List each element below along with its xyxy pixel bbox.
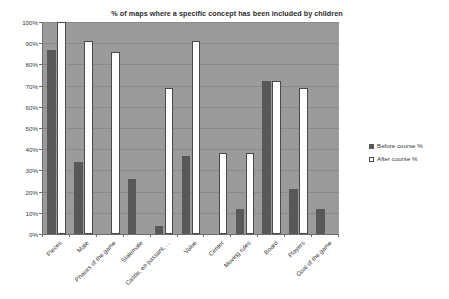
bar-after-course: [272, 81, 281, 234]
bar-before-course: [47, 50, 56, 234]
bar-group: [231, 22, 258, 234]
bar-group: [97, 22, 124, 234]
x-axis-label: Board: [262, 239, 279, 256]
x-axis-tick-mark: [150, 234, 151, 237]
y-axis-tick-label: 90%: [26, 40, 38, 47]
x-axis-tick-mark: [311, 234, 312, 237]
x-axis-tick-mark: [257, 234, 258, 237]
bar-before-course: [74, 162, 83, 234]
bar-after-course: [111, 52, 120, 234]
legend-item-label: Before course %: [377, 143, 423, 149]
bars-layer: [43, 22, 339, 234]
legend-item[interactable]: After course %: [369, 156, 423, 162]
outlined-square-icon: [369, 157, 374, 162]
x-axis-tick-mark: [203, 234, 204, 237]
bar-chart: % of maps where a specific concept has b…: [0, 0, 449, 299]
y-axis-tick-label: 40%: [26, 146, 38, 153]
bar-group: [70, 22, 97, 234]
bar-group: [151, 22, 178, 234]
bar-after-course: [57, 22, 66, 234]
bar-before-course: [289, 189, 298, 234]
bar-group: [258, 22, 285, 234]
legend-item-label: After course %: [377, 156, 418, 162]
x-axis-tick-mark: [123, 234, 124, 237]
bar-before-course: [155, 226, 164, 234]
chart-legend: Before course %After course %: [369, 143, 423, 169]
bar-before-course: [128, 179, 137, 234]
bar-before-course: [262, 81, 271, 234]
y-axis: 100%90%80%70%60%50%40%30%20%10%0%: [0, 0, 42, 236]
x-axis-tick-mark: [338, 234, 339, 237]
bar-before-course: [236, 209, 245, 234]
bar-group: [312, 22, 339, 234]
bar-after-course: [299, 88, 308, 234]
bar-group: [43, 22, 70, 234]
x-axis-label: Mate: [76, 239, 91, 254]
x-axis-label: Moving rules: [222, 239, 252, 269]
x-axis-label: Players: [286, 239, 306, 259]
x-axis-tick-mark: [284, 234, 285, 237]
y-axis-tick-label: 80%: [26, 61, 38, 68]
bar-after-course: [219, 153, 228, 234]
y-axis-tick-label: 60%: [26, 103, 38, 110]
y-axis-tick-label: 30%: [26, 167, 38, 174]
bar-before-course: [182, 156, 191, 234]
x-axis-label: Center: [207, 239, 225, 257]
y-axis-tick-label: 50%: [26, 125, 38, 132]
y-axis-tick-label: 10%: [26, 209, 38, 216]
bar-group: [124, 22, 151, 234]
x-axis-label: Pieces: [45, 239, 63, 257]
x-axis-tick-mark: [42, 234, 43, 237]
filled-square-icon: [369, 144, 374, 149]
x-axis-label: Value: [182, 239, 198, 255]
x-axis-label: Stalemate: [119, 239, 144, 264]
x-axis-tick-mark: [230, 234, 231, 237]
legend-item[interactable]: Before course %: [369, 143, 423, 149]
bar-group: [285, 22, 312, 234]
bar-group: [204, 22, 231, 234]
bar-after-course: [192, 41, 201, 234]
bar-after-course: [165, 88, 174, 234]
plot-area: [42, 22, 339, 235]
y-axis-tick-label: 20%: [26, 188, 38, 195]
bar-group: [178, 22, 205, 234]
chart-title: % of maps where a specific concept has b…: [72, 9, 382, 18]
x-axis: PiecesMatePhases of the gameStalemateCas…: [0, 234, 449, 299]
bar-after-course: [84, 41, 93, 234]
y-axis-tick-label: 70%: [26, 82, 38, 89]
x-axis-tick-mark: [69, 234, 70, 237]
x-axis-tick-mark: [96, 234, 97, 237]
y-axis-tick-label: 100%: [22, 19, 38, 26]
bar-before-course: [316, 209, 325, 234]
x-axis-tick-mark: [177, 234, 178, 237]
bar-after-course: [246, 153, 255, 234]
